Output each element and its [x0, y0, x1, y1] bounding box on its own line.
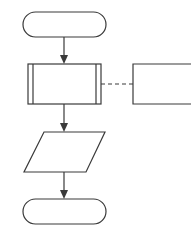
start-terminator[interactable]	[23, 12, 106, 37]
arrowhead-2	[60, 123, 68, 132]
arrowhead-3	[60, 190, 68, 199]
predefined-process-box[interactable]	[28, 64, 101, 104]
flowchart-canvas	[0, 0, 196, 233]
end-terminator[interactable]	[23, 199, 106, 224]
annotation-bracket[interactable]	[133, 64, 191, 104]
io-parallelogram[interactable]	[24, 132, 105, 172]
arrowhead-1	[60, 55, 68, 64]
flowchart-svg	[0, 0, 196, 233]
